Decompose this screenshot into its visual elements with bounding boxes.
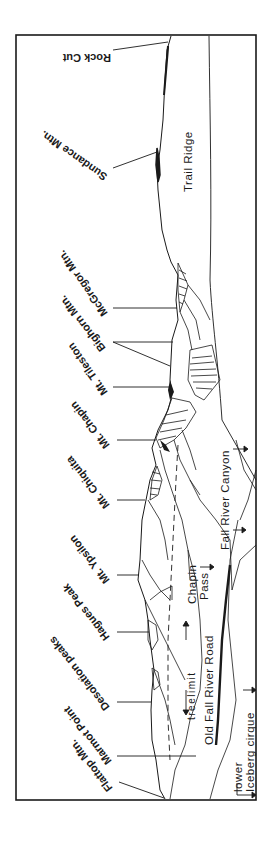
tileston-dark-patch: [168, 380, 174, 400]
label-iceberg-cirque: Iceberg cirque: [244, 712, 256, 792]
label-chapin: Mt. Chapin: [67, 399, 111, 451]
interior-ridges: [142, 285, 256, 799]
rock-cut-outcrop: [164, 46, 168, 95]
label-chiquita: Mt. Chiquita: [63, 453, 112, 511]
label-sundance: Sundance Mtn.: [38, 128, 109, 183]
panorama-diagram: Rock Cut Sundance Mtn. McGregor Mtn. Big…: [0, 0, 274, 841]
treelimit-line: [168, 445, 178, 760]
label-old-fall-river-road: Old Fall River Road: [203, 635, 215, 745]
label-fall-river-canyon: Fall River Canyon: [219, 450, 231, 550]
chapin-dark-patch: [160, 440, 170, 452]
label-chapin-pass-2: Pass: [198, 572, 210, 600]
label-hagues: Hagues Peak: [59, 581, 111, 643]
label-desolation: Desolation peaks: [46, 634, 111, 713]
trail-ridge-far-edge: [209, 36, 256, 480]
label-treelimit: treelimit: [186, 671, 197, 720]
label-lower: lower: [232, 762, 244, 792]
label-rock-cut: Rock Cut: [62, 52, 111, 64]
label-trail-ridge: Trail Ridge: [182, 131, 194, 192]
label-ypsilon: Mt. Ypsilon: [66, 533, 111, 586]
old-fall-river-road-line: [216, 565, 230, 745]
ridge-labels: Rock Cut Sundance Mtn. McGregor Mtn. Big…: [38, 52, 114, 794]
label-chapin-pass-1: Chapin: [186, 565, 198, 604]
